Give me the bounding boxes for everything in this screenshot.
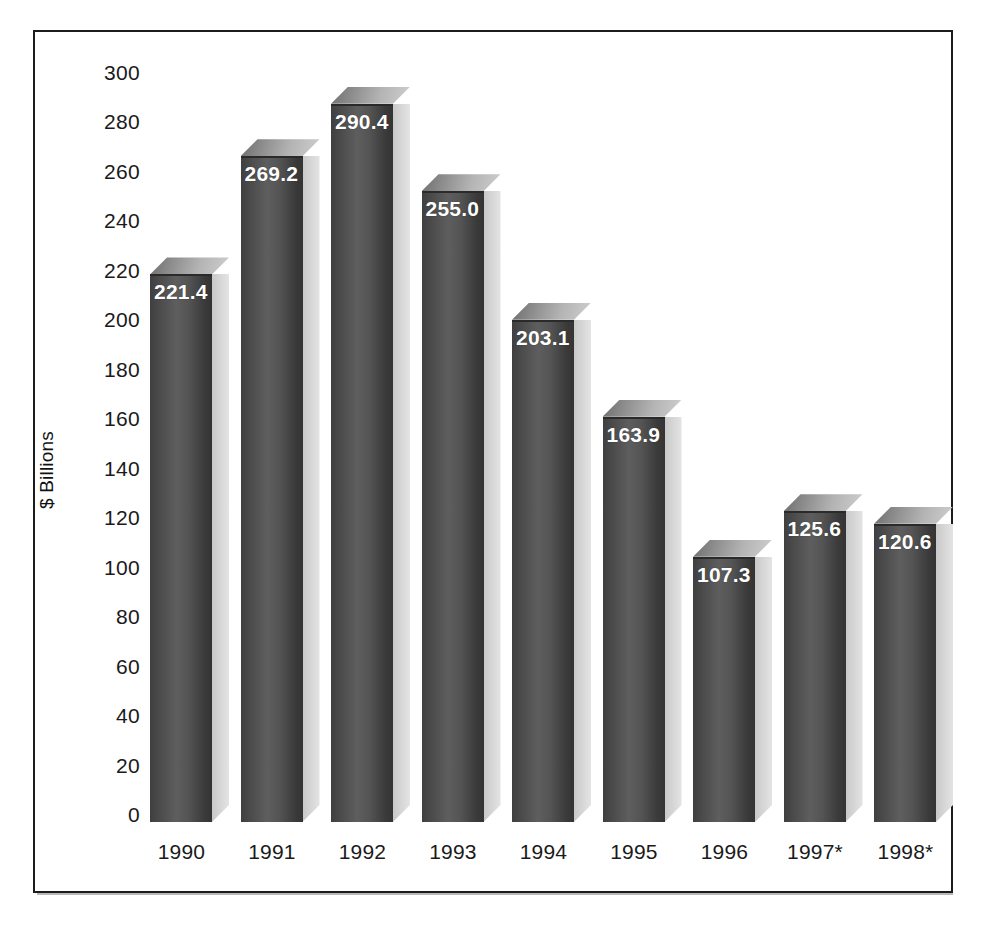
- bar-front-face: [512, 320, 574, 822]
- bar-front-face: [241, 156, 303, 822]
- x-axis-tick-1998-est: 1998*: [865, 840, 946, 864]
- bar-value-label: 269.2: [245, 162, 299, 186]
- bar-top-face: [874, 507, 953, 524]
- bar-1994: 203.1: [512, 320, 574, 822]
- y-axis-tick-100: 100: [70, 556, 140, 580]
- bar-value-label: 107.3: [697, 563, 751, 587]
- bar-top-face: [784, 494, 863, 511]
- bar-1996: 107.3: [693, 557, 755, 822]
- y-axis-tick-300: 300: [70, 61, 140, 85]
- bar-front-face: [693, 557, 755, 822]
- y-axis-tick-200: 200: [70, 308, 140, 332]
- x-axis-tick-1991: 1991: [232, 840, 313, 864]
- bar-top-face: [512, 303, 591, 320]
- bar-front-face: [150, 274, 212, 822]
- x-axis-tick-1995: 1995: [594, 840, 675, 864]
- bar-top-face: [150, 257, 229, 274]
- y-axis-tick-40: 40: [70, 704, 140, 728]
- x-axis-tick-1996: 1996: [684, 840, 765, 864]
- bar-side-face: [846, 511, 863, 822]
- bar-1991: 269.2: [241, 156, 303, 822]
- bar-value-label: 221.4: [154, 280, 208, 304]
- y-axis-tick-220: 220: [70, 259, 140, 283]
- plot-area: $ Billions 30028026024022020018016014012…: [0, 0, 988, 926]
- bar-front-face: [331, 104, 393, 822]
- bar-chart-figure: $ Billions 30028026024022020018016014012…: [0, 0, 988, 926]
- bar-top-face: [331, 87, 410, 104]
- y-axis-tick-280: 280: [70, 110, 140, 134]
- y-axis-title: $ Billions: [36, 431, 58, 509]
- bar-value-label: 203.1: [516, 326, 570, 350]
- bar-1993: 255.0: [422, 191, 484, 822]
- bar-1990: 221.4: [150, 274, 212, 822]
- bar-top-face: [241, 139, 320, 156]
- bar-front-face: [603, 417, 665, 822]
- bar-side-face: [393, 104, 410, 822]
- bar-side-face: [303, 156, 320, 822]
- bar-front-face: [422, 191, 484, 822]
- bar-side-face: [574, 320, 591, 822]
- x-axis-tick-1997-est: 1997*: [775, 840, 856, 864]
- bar-front-face: [784, 511, 846, 822]
- y-axis-tick-180: 180: [70, 358, 140, 382]
- y-axis-tick-240: 240: [70, 209, 140, 233]
- y-axis-tick-160: 160: [70, 407, 140, 431]
- bar-side-face: [665, 417, 682, 822]
- bar-side-face: [755, 557, 772, 822]
- y-axis-tick-80: 80: [70, 605, 140, 629]
- bar-1998-est: 120.6: [874, 524, 936, 822]
- bar-top-face: [603, 400, 682, 417]
- bar-top-face: [693, 540, 772, 557]
- bar-side-face: [212, 274, 229, 822]
- bar-side-face: [936, 524, 953, 822]
- y-axis-tick-120: 120: [70, 506, 140, 530]
- axis-baseline: [140, 822, 940, 823]
- bar-front-face: [874, 524, 936, 822]
- bar-value-label: 255.0: [426, 197, 480, 221]
- y-axis-tick-labels: 3002802602402202001801601401201008060402…: [70, 0, 140, 926]
- bar-value-label: 290.4: [335, 110, 389, 134]
- x-axis-tick-1994: 1994: [503, 840, 584, 864]
- y-axis-tick-140: 140: [70, 457, 140, 481]
- bar-side-face: [484, 191, 501, 822]
- x-axis-tick-1993: 1993: [413, 840, 494, 864]
- bar-1995: 163.9: [603, 417, 665, 822]
- bar-1997-est: 125.6: [784, 511, 846, 822]
- bar-value-label: 125.6: [788, 517, 842, 541]
- bar-top-face: [422, 174, 501, 191]
- x-axis-tick-1992: 1992: [322, 840, 403, 864]
- y-axis-tick-20: 20: [70, 754, 140, 778]
- y-axis-tick-60: 60: [70, 655, 140, 679]
- bar-value-label: 120.6: [878, 530, 932, 554]
- y-axis-tick-0: 0: [70, 803, 140, 827]
- bar-value-label: 163.9: [607, 423, 661, 447]
- y-axis-tick-260: 260: [70, 160, 140, 184]
- bar-1992: 290.4: [331, 104, 393, 822]
- x-axis-tick-1990: 1990: [141, 840, 222, 864]
